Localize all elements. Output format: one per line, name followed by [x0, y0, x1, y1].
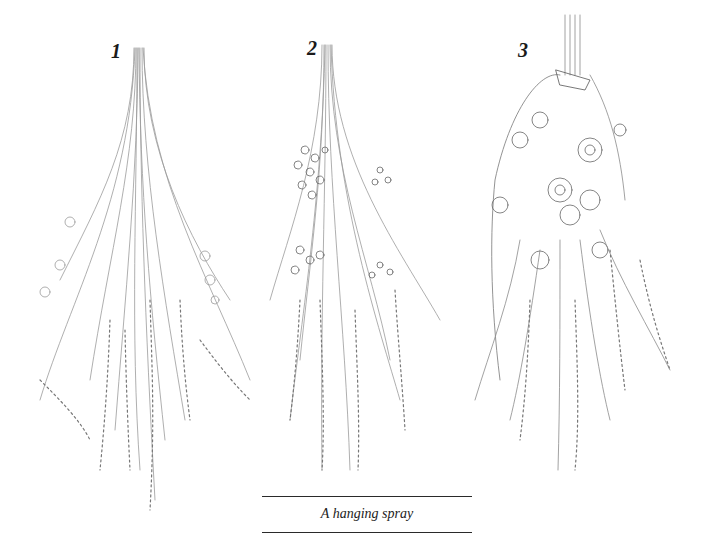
caption-bottom-rule: [262, 532, 472, 533]
spray-1: [40, 48, 250, 510]
hanging-spray-illustration: [0, 0, 718, 542]
spray-2: [270, 45, 440, 470]
figure-caption: A hanging spray: [262, 506, 472, 522]
caption-top-rule: [262, 496, 472, 497]
spray-3: [475, 15, 670, 470]
